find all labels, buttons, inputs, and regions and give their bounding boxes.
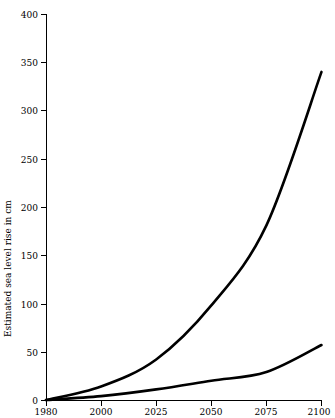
y-axis-title: Estimated sea level rise in cm (3, 200, 13, 337)
x-axis-tick-labels: 1980 2000 2025 2050 2075 2100 (35, 407, 331, 417)
line-chart-svg: 0 50 100 150 200 250 300 350 400 1980 20… (0, 0, 335, 418)
x-tick-label: 2100 (308, 407, 331, 417)
x-tick-label: 1980 (35, 407, 58, 417)
y-tick-label: 150 (21, 251, 38, 261)
y-tick-label: 350 (21, 58, 38, 68)
y-tick-label: 250 (21, 155, 38, 165)
series-line-high-scenario (46, 72, 322, 400)
y-tick-label: 200 (21, 203, 38, 213)
y-axis-ticks (41, 15, 46, 401)
x-tick-label: 2025 (145, 407, 168, 417)
y-tick-label: 0 (32, 396, 38, 406)
x-tick-label: 2075 (255, 407, 278, 417)
x-tick-label: 2050 (200, 407, 223, 417)
x-tick-label: 2000 (90, 407, 113, 417)
y-tick-label: 400 (21, 10, 38, 20)
chart-figure: 0 50 100 150 200 250 300 350 400 1980 20… (0, 0, 335, 418)
y-tick-label: 50 (27, 348, 39, 358)
y-axis-tick-labels: 0 50 100 150 200 250 300 350 400 (21, 10, 38, 406)
y-tick-label: 300 (21, 106, 38, 116)
y-tick-label: 100 (21, 300, 38, 310)
